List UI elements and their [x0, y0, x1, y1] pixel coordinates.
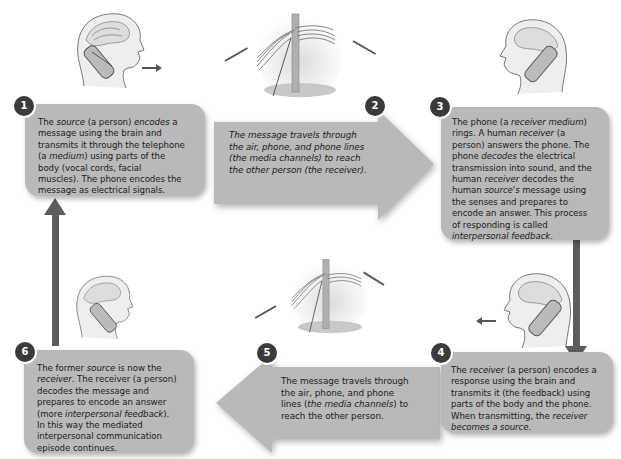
step-2-text: The message travels throughthe air, phon… — [229, 130, 367, 176]
text-line: rings. A human receiver (a — [452, 128, 592, 139]
step-4-badge: 4 — [431, 343, 451, 363]
step-6-badge: 6 — [15, 342, 35, 362]
text-line: body (vocal cords, facial — [38, 163, 185, 174]
head-speaking-icon — [72, 8, 162, 90]
text-line: becomes a source. — [451, 422, 597, 433]
head-speaking-icon — [496, 268, 576, 348]
outgoing-arrow-icon — [482, 320, 496, 322]
text-line: lines (the media channels) to — [281, 399, 409, 411]
text-line: (the media channels) to reach — [229, 153, 367, 165]
text-line: transmits it (the feedback) using — [451, 388, 597, 399]
text-line: The message travels through — [229, 130, 367, 142]
text-line: reach the other person. — [281, 411, 409, 423]
text-line: message as electrical signals. — [38, 185, 185, 196]
arrow-out-of-pole — [255, 305, 277, 319]
text-line: receiver. The receiver (a person) — [37, 374, 177, 385]
text-line: message using the brain and — [38, 128, 185, 139]
text-line: In this way the mediated — [37, 420, 177, 431]
text-line: The phone (a receiver medium) — [452, 117, 592, 128]
step-1-text: The source (a person) encodes amessage u… — [38, 117, 185, 197]
step-3-badge: 3 — [430, 97, 450, 117]
step-1-badge: 1 — [14, 96, 34, 116]
text-line: the air, phone, and phone lines — [229, 142, 367, 154]
text-line: transmission into sound, and the — [452, 163, 592, 174]
text-line: transmits it through the telephone — [38, 140, 185, 151]
text-line: episode continues. — [37, 443, 177, 454]
text-line: human receiver decodes the — [452, 174, 592, 185]
text-line: human source's message using — [452, 185, 592, 196]
text-line: encode an answer. This process — [452, 208, 592, 219]
text-line: The message travels through — [281, 376, 409, 388]
step-6-text: The former source is now thereceiver. Th… — [37, 363, 177, 454]
text-line: parts of the body and the phone. — [451, 399, 597, 410]
text-line: When transmitting, the receiver — [451, 411, 597, 422]
head-listening-icon — [492, 14, 572, 94]
text-line: The source (a person) encodes a — [38, 117, 185, 128]
text-line: muscles). The phone encodes the — [38, 174, 185, 185]
arrow-into-pole — [225, 47, 249, 62]
text-line: the senses and prepares to — [452, 197, 592, 208]
step-3-text: The phone (a receiver medium)rings. A hu… — [452, 117, 592, 242]
text-line: prepares to encode an answer — [37, 397, 177, 408]
arrow-head — [156, 64, 162, 72]
arrow-head — [476, 317, 482, 325]
text-line: response using the brain and — [451, 376, 597, 387]
text-line: the air, phone, and phone — [281, 388, 409, 400]
telephone-pole-icon — [290, 252, 370, 336]
text-line: (more interpersonal feedback). — [37, 409, 177, 420]
flow-arrow-down — [573, 240, 580, 348]
head-listening-icon — [72, 268, 148, 344]
text-line: person) answers the phone. The — [452, 140, 592, 151]
telephone-pole-icon — [255, 8, 345, 98]
text-line: interpersonal feedback. — [452, 231, 592, 242]
step-5-text: The message travels throughthe air, phon… — [281, 376, 409, 422]
text-line: the other person (the receiver). — [229, 165, 367, 177]
text-line: interpersonal communication — [37, 431, 177, 442]
step-4-text: The receiver (a person) encodes arespons… — [451, 365, 597, 433]
text-line: of responding is called — [452, 220, 592, 231]
step-2-badge: 2 — [365, 96, 385, 116]
step-5-badge: 5 — [257, 343, 277, 363]
text-line: The receiver (a person) encodes a — [451, 365, 597, 376]
flow-arrow-up-head — [44, 198, 66, 215]
text-line: (a medium) using parts of the — [38, 151, 185, 162]
text-line: phone decodes the electrical — [452, 151, 592, 162]
flow-arrow-up — [52, 214, 59, 346]
text-line: The former source is now the — [37, 363, 177, 374]
text-line: decodes the message and — [37, 386, 177, 397]
arrow-out-of-pole — [353, 40, 377, 55]
